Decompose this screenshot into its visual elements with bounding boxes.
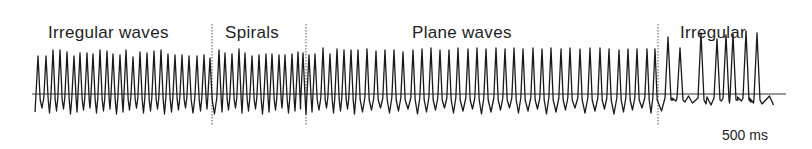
voltage-trace-plot	[0, 0, 812, 149]
trace-line	[35, 31, 774, 114]
